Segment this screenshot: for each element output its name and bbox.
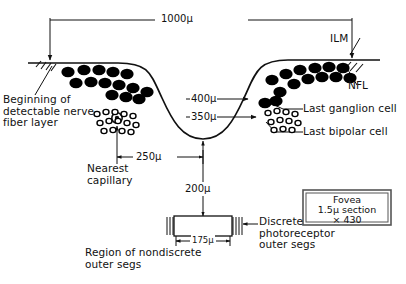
ganglion-cell [336, 63, 349, 73]
dimension-label-175: 175μ [191, 235, 215, 245]
bipolar-cell [119, 128, 125, 133]
ganglion-cell [105, 90, 118, 100]
ganglion-cell [287, 79, 300, 89]
bipolar-cell [124, 120, 130, 125]
bipolar-cell [265, 110, 271, 115]
bipolar-cell [110, 127, 116, 132]
last-bipolar-label: Last bipolar cell [303, 126, 388, 138]
bipolar-cell [94, 111, 100, 116]
ganglion-cell [329, 72, 342, 82]
bipolar-cell [103, 109, 109, 114]
bipolar-cell [115, 118, 121, 123]
ganglion-cell [258, 98, 271, 108]
ilm-label: ILM [330, 33, 348, 45]
ganglion-cell [69, 78, 82, 88]
ganglion-cell [301, 74, 314, 84]
ganglion-cell [315, 72, 328, 82]
bipolar-cell [97, 120, 103, 125]
bipolar-cell [101, 128, 107, 133]
bipolar-cell [295, 120, 301, 125]
dimension-label-250: 250μ [135, 151, 162, 162]
bipolar-cell [106, 118, 112, 123]
bipolar-cell [112, 109, 118, 114]
fovea-diagram-figure: 1000μ ILM NFL Beginning of detectable ne… [0, 0, 406, 284]
bipolar-cell [283, 109, 289, 114]
ganglion-cell [126, 83, 139, 93]
ganglion-cell [112, 80, 125, 90]
ganglion-cell [120, 69, 133, 79]
ganglion-cell [293, 65, 306, 75]
ganglion-cell [98, 78, 111, 88]
ganglion-cell [119, 92, 132, 102]
dimension-label-400: 400μ [190, 93, 217, 104]
nfl-label: NFL [348, 80, 368, 92]
nerve-fiber-start-leader [35, 66, 52, 95]
ganglion-cell [61, 67, 74, 77]
caption-line-3: × 430 [306, 214, 388, 225]
dimension-label-1000: 1000μ [160, 13, 194, 24]
ganglion-cell [106, 67, 119, 77]
bipolar-cell [268, 119, 274, 124]
ganglion-cell [269, 96, 282, 106]
last-ganglion-label: Last ganglion cell [303, 103, 397, 115]
bipolar-cell [274, 108, 280, 113]
dimension-1000-micron [50, 18, 352, 60]
nondiscrete-region-label: Region of nondiscrete outer segs [85, 247, 202, 270]
dimension-label-350: 350μ [190, 111, 217, 122]
ganglion-cell [77, 65, 90, 75]
nerve-fiber-start-label: Beginning of detectable nerve fiber laye… [3, 94, 94, 129]
ganglion-cell [140, 87, 153, 97]
bipolar-cell [280, 126, 286, 131]
bipolar-cell [286, 118, 292, 123]
bipolar-cell [271, 127, 277, 132]
nearest-capillary-label: Nearest capillary [87, 163, 133, 186]
bipolar-cell [292, 111, 298, 116]
bipolar-cell [277, 117, 283, 122]
bipolar-cell [130, 113, 136, 118]
bipolar-cell [128, 129, 134, 134]
ganglion-cell [279, 69, 292, 79]
bipolar-cell [121, 111, 127, 116]
ganglion-cell [322, 62, 335, 72]
ganglion-cell [308, 63, 321, 73]
bipolar-cell [133, 122, 139, 127]
ganglion-cell [84, 77, 97, 87]
dimension-label-200: 200μ [184, 183, 211, 194]
bipolar-cell [289, 127, 295, 132]
ganglion-cell [273, 87, 286, 97]
ganglion-cell [92, 65, 105, 75]
ganglion-cell [265, 75, 278, 85]
